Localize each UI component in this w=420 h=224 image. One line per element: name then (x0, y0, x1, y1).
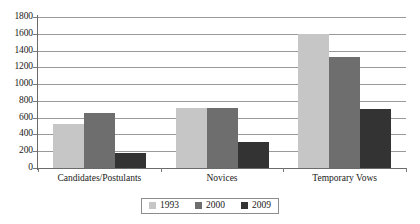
x-axis-tick (406, 168, 407, 172)
x-axis-tick (38, 168, 39, 172)
bar[interactable] (115, 153, 146, 168)
y-axis-tick-label: 0 (0, 163, 33, 173)
legend-item[interactable]: 1993 (149, 201, 179, 211)
y-axis-tick-label: 200 (0, 146, 33, 156)
x-axis-tick (161, 168, 162, 172)
bar[interactable] (329, 57, 360, 168)
bar[interactable] (298, 34, 329, 168)
legend: 199320002009 (141, 198, 279, 214)
bar-group-bars (283, 17, 406, 168)
legend-label: 2000 (206, 201, 225, 211)
legend-swatch-icon (149, 202, 156, 209)
legend-swatch-icon (195, 202, 202, 209)
y-axis-tick-label: 1200 (0, 62, 33, 72)
bar-groups (38, 17, 406, 168)
legend-label: 1993 (160, 201, 179, 211)
bar[interactable] (360, 109, 391, 168)
bar-group (283, 17, 406, 168)
x-axis-tick (283, 168, 284, 172)
x-axis-labels: Candidates/PostulantsNovicesTemporary Vo… (38, 172, 406, 184)
bar[interactable] (53, 124, 84, 168)
y-axis-tick-label: 600 (0, 113, 33, 123)
bar-chart: 020040060080010001200140016001800 Candid… (0, 0, 420, 224)
bar-group (161, 17, 284, 168)
x-axis-tick-label: Candidates/Postulants (38, 172, 161, 184)
y-axis-tick-label: 800 (0, 96, 33, 106)
bar[interactable] (176, 108, 207, 168)
bar[interactable] (238, 142, 269, 168)
bar[interactable] (207, 108, 238, 168)
legend-label: 2009 (252, 201, 271, 211)
y-axis-labels: 020040060080010001200140016001800 (0, 0, 33, 224)
bar[interactable] (84, 113, 115, 168)
bar-group-bars (161, 17, 284, 168)
y-axis-tick-label: 1000 (0, 79, 33, 89)
gridline-0 (38, 168, 406, 169)
bar-group-bars (38, 17, 161, 168)
y-axis-tick-label: 1600 (0, 29, 33, 39)
legend-item[interactable]: 2009 (241, 201, 271, 211)
y-axis-tick-label: 400 (0, 129, 33, 139)
legend-swatch-icon (241, 202, 248, 209)
y-axis-tick-label: 1800 (0, 12, 33, 22)
legend-item[interactable]: 2000 (195, 201, 225, 211)
y-axis-tick-label: 1400 (0, 46, 33, 56)
bar-group (38, 17, 161, 168)
x-axis-tick-label: Novices (161, 172, 284, 184)
plot-area (38, 17, 406, 168)
x-axis-tick-label: Temporary Vows (283, 172, 406, 184)
